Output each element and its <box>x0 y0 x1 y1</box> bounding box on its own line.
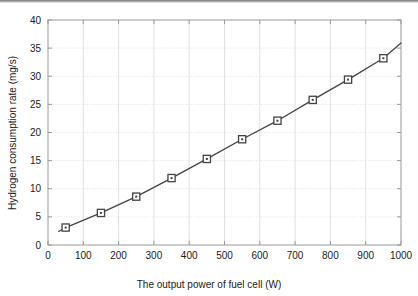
x-tick-label: 400 <box>181 250 198 261</box>
x-tick-label: 700 <box>287 250 304 261</box>
data-point-marker-center <box>206 158 208 160</box>
tick-labels-layer: 0100200300400500600700800900100005101520… <box>30 15 413 262</box>
x-tick-label: 800 <box>322 250 339 261</box>
data-point-marker-center <box>276 120 278 122</box>
data-series-layer <box>59 43 401 231</box>
y-tick-label: 35 <box>30 43 42 54</box>
x-tick-label: 0 <box>45 250 51 261</box>
y-tick-label: 25 <box>30 99 42 110</box>
x-tick-label: 300 <box>146 250 163 261</box>
y-tick-label: 5 <box>35 211 41 222</box>
y-tick-label: 40 <box>30 15 42 26</box>
data-point-marker-center <box>135 196 137 198</box>
x-tick-label: 100 <box>75 250 92 261</box>
y-axis-title: Hydrogen consumption rate (mg/s) <box>7 56 18 210</box>
x-tick-label: 600 <box>251 250 268 261</box>
data-point-marker-center <box>171 177 173 179</box>
y-tick-label: 30 <box>30 71 42 82</box>
data-point-marker-center <box>382 57 384 59</box>
data-point-marker-center <box>65 227 67 229</box>
hydrogen-consumption-line-chart: 0100200300400500600700800900100005101520… <box>0 0 418 296</box>
y-tick-label: 10 <box>30 183 42 194</box>
x-tick-label: 1000 <box>390 250 413 261</box>
chart-figure: 0100200300400500600700800900100005101520… <box>0 0 418 296</box>
y-tick-label: 0 <box>35 240 41 251</box>
series-line <box>59 43 401 231</box>
image-top-edge-artifact <box>0 0 418 3</box>
data-point-marker-center <box>100 212 102 214</box>
y-tick-label: 20 <box>30 127 42 138</box>
data-point-marker-center <box>241 138 243 140</box>
x-tick-label: 900 <box>357 250 374 261</box>
data-point-marker-center <box>347 79 349 81</box>
x-tick-label: 200 <box>110 250 127 261</box>
x-axis-title: The output power of fuel cell (W) <box>137 279 282 290</box>
x-tick-label: 500 <box>216 250 233 261</box>
y-tick-label: 15 <box>30 155 42 166</box>
data-point-marker-center <box>312 99 314 101</box>
